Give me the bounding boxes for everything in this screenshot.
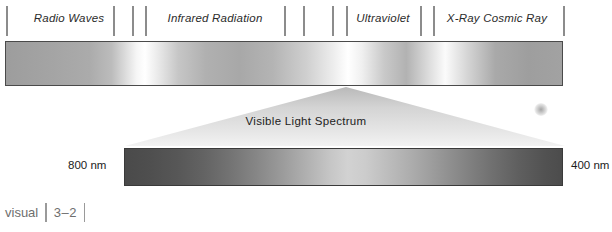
electromagnetic-spectrum-bar [5, 41, 563, 86]
spectrum-tick-0 [6, 6, 8, 36]
caption-rule-left [45, 203, 47, 222]
band-label-xray-cosmic-ray: X-Ray Cosmic Ray [432, 12, 562, 24]
figure-caption-prefix: visual [5, 205, 38, 220]
visible-light-spectrum-bar [124, 148, 563, 186]
visible-light-spectrum-caption: Visible Light Spectrum [0, 115, 612, 127]
band-label-ultraviolet: Ultraviolet [343, 12, 423, 24]
band-label-radio-waves: Radio Waves [9, 12, 129, 24]
caption-rule-right [84, 203, 86, 222]
spectrum-tick-10 [563, 6, 565, 36]
spectrum-tick-6 [332, 6, 334, 36]
spectrum-tick-2 [132, 6, 134, 36]
figure-caption: visual 3–2 [5, 203, 85, 222]
band-label-infrared-radiation: Infrared Radiation [140, 12, 290, 24]
electromagnetic-spectrum-figure: Radio Waves Infrared Radiation Ultraviol… [0, 0, 612, 232]
wavelength-label-left: 800 nm [68, 159, 106, 171]
spectrum-band-label-row: Radio Waves Infrared Radiation Ultraviol… [0, 6, 612, 36]
spectrum-tick-5 [303, 6, 305, 36]
wavelength-label-right: 400 nm [571, 159, 609, 171]
figure-caption-number: 3–2 [54, 205, 77, 220]
